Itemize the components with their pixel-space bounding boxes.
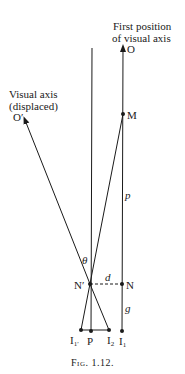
- label-O-prime: O′: [13, 111, 23, 123]
- point-M: [121, 112, 125, 116]
- label-first-position-2: of visual axis: [112, 32, 171, 44]
- label-theta: θ: [82, 254, 87, 266]
- point-N-prime: [88, 282, 92, 286]
- label-g: g: [125, 302, 131, 314]
- line-M-I2: [81, 114, 123, 330]
- point-N: [120, 282, 124, 286]
- label-first-position-1: First position: [113, 20, 171, 32]
- optics-diagram: [0, 0, 185, 374]
- point-P: [89, 329, 93, 333]
- label-O: O: [127, 43, 135, 55]
- label-I1: I1: [119, 335, 126, 351]
- point-I2: [107, 328, 111, 332]
- label-I2: I2: [107, 334, 114, 350]
- first-visual-axis: [122, 48, 123, 331]
- label-M: M: [127, 109, 137, 121]
- point-I1: [120, 329, 124, 333]
- figure-caption: Fig. 1.12.: [0, 357, 185, 368]
- label-d: d: [105, 271, 111, 283]
- label-I1-prime: I1′: [70, 334, 79, 350]
- label-P: P: [87, 335, 93, 347]
- label-N-prime: N′: [74, 279, 84, 291]
- displaced-visual-axis: [25, 120, 90, 284]
- point-I1-prime: [79, 328, 83, 332]
- line-N-prime-I2: [90, 284, 109, 330]
- label-displaced-1: Visual axis: [9, 88, 58, 100]
- label-N: N: [126, 279, 134, 291]
- label-p: p: [125, 189, 131, 201]
